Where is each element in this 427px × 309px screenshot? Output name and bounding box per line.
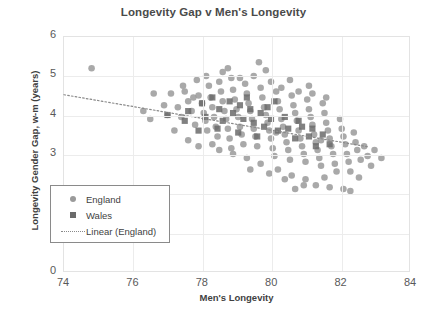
data-point-england <box>282 176 289 183</box>
data-point-england <box>288 172 295 179</box>
chart-container: Longevity Gap v Men's Longevity 74767880… <box>0 0 427 309</box>
data-point-england <box>211 114 218 121</box>
y-tick-label: 6 <box>32 28 56 40</box>
data-point-england <box>247 166 254 173</box>
data-point-england <box>342 141 349 148</box>
data-point-england <box>275 166 282 173</box>
data-point-england <box>300 182 307 189</box>
data-point-england <box>218 88 225 95</box>
data-point-england <box>268 79 275 86</box>
data-point-england <box>219 98 226 105</box>
data-point-wales <box>209 94 215 100</box>
data-point-england <box>278 84 285 91</box>
data-point-england <box>206 82 213 89</box>
data-point-england <box>326 184 333 191</box>
data-point-england <box>354 147 361 154</box>
data-point-wales <box>313 143 319 149</box>
data-point-england <box>300 151 307 158</box>
data-point-england <box>216 79 223 86</box>
chart-legend: England Wales Linear (England) <box>50 185 170 243</box>
data-point-england <box>161 102 168 109</box>
data-point-england <box>330 151 337 158</box>
y-tick-label: 0 <box>32 264 56 276</box>
data-point-england <box>254 143 261 150</box>
gridline-vertical <box>203 37 204 271</box>
data-point-england <box>313 182 320 189</box>
data-point-england <box>263 67 270 74</box>
data-point-england <box>304 96 311 103</box>
data-point-england <box>319 100 326 107</box>
legend-item-trendline: Linear (England) <box>51 223 169 239</box>
data-point-wales <box>240 116 246 122</box>
data-point-wales <box>247 106 253 112</box>
data-point-england <box>273 88 280 95</box>
data-point-england <box>230 86 237 93</box>
data-point-england <box>225 65 232 72</box>
data-point-england <box>230 151 237 158</box>
data-point-england <box>150 90 157 97</box>
data-point-england <box>181 88 188 95</box>
data-point-england <box>219 69 226 76</box>
data-point-england <box>321 174 328 181</box>
gridline-vertical <box>342 37 343 271</box>
data-point-england <box>171 127 178 134</box>
data-point-england <box>347 188 354 195</box>
data-point-wales <box>299 124 305 130</box>
data-point-england <box>371 147 378 154</box>
data-point-england <box>204 127 211 134</box>
data-point-england <box>287 157 294 164</box>
data-point-wales <box>309 126 315 132</box>
data-point-england <box>190 94 197 101</box>
data-point-wales <box>244 94 250 100</box>
x-tick-label: 84 <box>395 276 425 288</box>
x-tick-label: 74 <box>48 276 78 288</box>
x-tick-label: 82 <box>326 276 356 288</box>
data-point-england <box>333 168 340 175</box>
data-point-wales <box>327 141 333 147</box>
square-marker-icon <box>60 212 86 218</box>
data-point-england <box>295 88 302 95</box>
x-tick-label: 76 <box>117 276 147 288</box>
legend-label-wales: Wales <box>86 210 112 221</box>
data-point-wales <box>254 133 260 139</box>
data-point-england <box>323 120 330 127</box>
data-point-england <box>347 168 354 175</box>
data-point-england <box>185 137 192 144</box>
data-point-england <box>344 151 351 158</box>
x-axis-label: Men's Longevity <box>63 292 410 303</box>
data-point-wales <box>320 131 326 137</box>
data-point-wales <box>220 118 226 124</box>
gridline-horizontal <box>64 76 409 77</box>
data-point-england <box>268 135 275 142</box>
data-point-england <box>287 77 294 84</box>
data-point-england <box>226 135 233 142</box>
data-point-england <box>257 160 264 167</box>
chart-title: Longevity Gap v Men's Longevity <box>0 6 427 18</box>
data-point-england <box>259 94 266 101</box>
data-point-england <box>351 129 358 136</box>
data-point-england <box>180 82 187 89</box>
data-point-wales <box>264 104 270 110</box>
x-tick-label: 78 <box>187 276 217 288</box>
data-point-england <box>318 162 325 169</box>
data-point-wales <box>185 108 191 114</box>
data-point-england <box>356 174 363 181</box>
circle-marker-icon <box>60 196 86 202</box>
data-point-wales <box>292 135 298 141</box>
data-point-england <box>245 100 252 107</box>
data-point-england <box>88 65 95 72</box>
gridline-horizontal <box>64 155 409 156</box>
data-point-wales <box>285 126 291 132</box>
data-point-wales <box>216 106 222 112</box>
data-point-england <box>228 145 235 152</box>
data-point-england <box>290 102 297 109</box>
data-point-england <box>368 162 375 169</box>
data-point-england <box>357 157 364 164</box>
data-point-england <box>285 147 292 154</box>
data-point-england <box>240 141 247 148</box>
legend-item-england: England <box>51 191 169 207</box>
data-point-england <box>309 90 316 97</box>
data-point-england <box>168 90 175 97</box>
data-point-wales <box>235 129 241 135</box>
legend-label-trendline: Linear (England) <box>86 226 156 237</box>
